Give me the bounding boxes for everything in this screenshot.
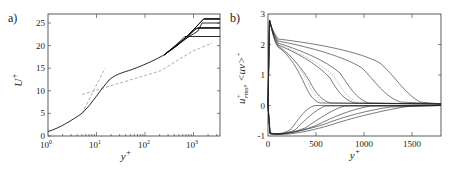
svg-text:20: 20 (36, 41, 46, 51)
urms-dotted-b (278, 44, 360, 103)
panel-b-label: b) (230, 11, 240, 25)
svg-text:0: 0 (266, 139, 271, 149)
svg-text:100: 100 (40, 139, 52, 150)
svg-text:10: 10 (36, 86, 46, 96)
svg-text:3: 3 (261, 9, 266, 19)
svg-text:5: 5 (41, 108, 46, 118)
svg-text:103: 103 (186, 139, 198, 150)
x-tick-labels-b: 0 500 1000 1500 (266, 139, 422, 149)
reference-lines-a (82, 43, 212, 113)
svg-text:2: 2 (261, 40, 266, 50)
velocity-profiles-a (48, 19, 220, 132)
panel-a: a) 0 5 10 15 20 25 (8, 11, 220, 162)
panel-b: b) -1 0 1 2 3 0 500 1000 1500 y+ u+rms, … (230, 9, 441, 161)
svg-text:0: 0 (261, 101, 266, 111)
svg-text:102: 102 (138, 139, 150, 150)
y-axis-label-b: u+rms, <uv>+ (235, 52, 250, 104)
y-tick-labels-a: 0 5 10 15 20 25 (36, 18, 46, 141)
figure: a) 0 5 10 15 20 25 (0, 0, 455, 169)
urms-curves-b (268, 20, 441, 106)
plot-frame-a (48, 14, 220, 136)
x-tick-labels-a: 100 101 102 103 (40, 139, 198, 150)
svg-text:u+rms, <uv>+: u+rms, <uv>+ (235, 52, 250, 104)
svg-text:1: 1 (261, 70, 266, 80)
svg-text:500: 500 (309, 139, 323, 149)
svg-text:U+: U+ (10, 73, 24, 86)
svg-text:1500: 1500 (403, 139, 422, 149)
uv-curves-b (268, 106, 441, 135)
svg-text:101: 101 (89, 139, 101, 150)
x-ticks-a (63, 14, 217, 136)
svg-text:15: 15 (36, 63, 46, 73)
panel-a-label: a) (8, 11, 17, 25)
svg-text:-1: -1 (258, 131, 266, 141)
svg-text:25: 25 (36, 18, 46, 28)
x-axis-label-b: y+ (349, 147, 360, 161)
y-tick-labels-b: -1 0 1 2 3 (258, 9, 266, 141)
x-axis-label-a: y+ (120, 148, 131, 162)
y-axis-label-a: U+ (10, 73, 24, 86)
